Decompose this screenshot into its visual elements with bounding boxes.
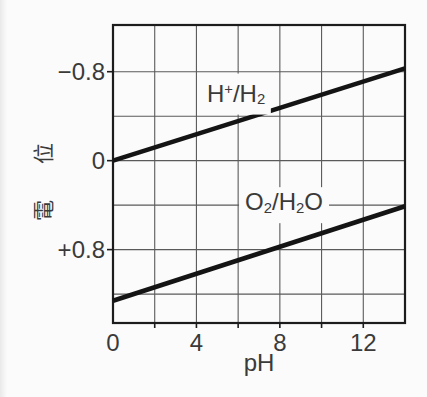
- x-tick-label: 4: [190, 330, 203, 356]
- label-text: O: [245, 188, 264, 215]
- series-label-O2/H2O: O2/H2O: [239, 187, 329, 223]
- label-text: /H: [233, 80, 257, 107]
- sub-text: 2: [264, 200, 272, 216]
- series-label-H+/H2: H+/H2: [201, 74, 271, 115]
- y-tick-label: −0.8: [29, 59, 105, 85]
- sub-text: 2: [296, 200, 304, 216]
- figure-pourbaix-chart: −0.80+0.8 04812 H+/H2O2/H2O 電位 pH: [0, 0, 427, 397]
- x-tick-label: 0: [106, 330, 119, 356]
- sub-text: 2: [257, 91, 265, 107]
- x-axis-title: pH: [244, 350, 275, 376]
- sup-text: +: [224, 81, 233, 97]
- x-tick-label: 12: [350, 330, 377, 356]
- label-text: /H: [272, 188, 296, 215]
- label-text: H: [207, 80, 224, 107]
- label-text: O: [304, 188, 323, 215]
- plot-frame: [113, 25, 405, 323]
- x-tick-label: 8: [273, 330, 286, 356]
- y-axis-title: 電位: [33, 107, 55, 257]
